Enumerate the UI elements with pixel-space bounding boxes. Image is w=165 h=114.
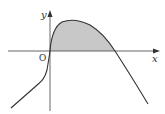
shaded-area bbox=[50, 20, 115, 51]
y-axis-label: y bbox=[40, 9, 47, 20]
origin-label: O bbox=[39, 52, 46, 63]
y-axis-arrow-icon bbox=[48, 10, 53, 17]
x-axis-label: x bbox=[152, 53, 158, 64]
function-graph-figure: y x O bbox=[0, 0, 165, 114]
